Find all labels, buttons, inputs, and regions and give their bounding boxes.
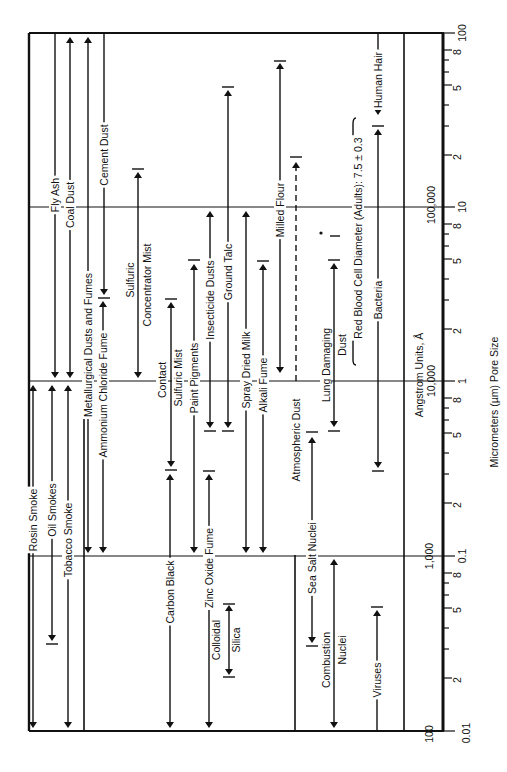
label-nuclei: Nuclei [336, 635, 348, 664]
tick-10: 10 [456, 201, 468, 213]
tick-2: 2 [451, 328, 463, 334]
tick-5: 5 [451, 258, 463, 264]
series-labels: Rosin Smoke Oil Smokes Tobacco Smoke Fly… [27, 49, 384, 699]
label-rosin-smoke: Rosin Smoke [27, 489, 39, 552]
angstrom-100000: 100,000 [425, 186, 437, 224]
tick-0.01: 0.01 [460, 723, 472, 744]
tick-1: 1 [456, 378, 468, 384]
label-coal-dust: Coal Dust [64, 182, 76, 228]
label-sulfuric-2: Concentrator Mist [141, 243, 153, 326]
label-bacteria: Bacteria [372, 281, 384, 320]
angstrom-axis-title: Angstrom Units, Å [413, 333, 425, 418]
label-paint-pigments: Paint Pigments [188, 343, 200, 414]
label-lung-damaging: Lung Damaging [320, 328, 332, 402]
angstrom-labels: 100 1,000 10,000 100,000 Angstrom Units,… [413, 186, 437, 743]
particle-size-chart: 100 8 5 2 10 8 5 2 1 8 5 2 0.1 8 5 2 0.0… [0, 0, 507, 772]
tick-0.5: 5 [451, 432, 463, 438]
label-milled-flour: Milled Flour [274, 182, 286, 237]
label-carbon-black: Carbon Black [164, 560, 176, 624]
micrometer-tick-labels: 100 8 5 2 10 8 5 2 1 8 5 2 0.1 8 5 2 0.0… [451, 24, 472, 743]
label-lung-dust: Dust [336, 334, 348, 356]
label-atmospheric-dust: Atmospheric Dust [290, 398, 302, 481]
label-insecticide-dusts: Insecticide Dusts [204, 260, 216, 339]
label-oil-smokes: Oil Smokes [46, 483, 58, 537]
label-viruses: Viruses [371, 663, 383, 698]
angstrom-100: 100 [423, 725, 435, 743]
label-colloidal: Colloidal [210, 620, 222, 660]
x-axis-title: Micrometers (µm) Pore Size [488, 336, 500, 467]
label-spray-dried-milk: Spray Dried Milk [240, 331, 252, 409]
tick-80: 8 [451, 49, 463, 55]
label-metallurgical: Metallurgical Dusts and Fumes [82, 273, 94, 417]
label-contact-sulfuric-mist: Sulfuric Mist [172, 349, 184, 406]
tick-0.05: 5 [451, 607, 463, 613]
label-sulfuric-1: Sulfuric [124, 262, 136, 297]
label-red-blood-cell: Red Blood Cell Diameter (Adults): 7.5 ± … [352, 137, 364, 338]
tick-8: 8 [451, 223, 463, 229]
tick-100: 100 [456, 24, 468, 42]
tick-0.2: 2 [451, 502, 463, 508]
label-cement-dust: Cement Dust [98, 124, 110, 185]
label-fly-ash: Fly Ash [49, 178, 61, 213]
label-combustion: Combustion [320, 632, 332, 688]
label-ground-talc: Ground Talc [222, 244, 234, 300]
label-contact: Contact [156, 362, 168, 398]
tick-0.08: 8 [451, 572, 463, 578]
tick-0.1: 0.1 [456, 549, 468, 564]
tick-0.02: 2 [451, 677, 463, 683]
angstrom-1000: 1,000 [423, 543, 435, 569]
label-sea-salt-nuclei: Sea Salt Nuclei [306, 522, 318, 594]
tick-0.8: 8 [451, 397, 463, 403]
angstrom-10000: 10,000 [425, 365, 437, 397]
label-tobacco-smoke: Tobacco Smoke [62, 502, 74, 577]
tick-20: 2 [451, 154, 463, 160]
label-alkali-fume: Alkali Fume [257, 357, 269, 412]
micrometer-axis [443, 33, 455, 731]
label-zinc-oxide-fume: Zinc Oxide Fume [203, 528, 215, 608]
label-human-hair: Human Hair [372, 51, 384, 108]
rbc-dot [319, 231, 322, 234]
label-silica: Silica [230, 627, 242, 652]
tick-50: 5 [451, 85, 463, 91]
label-ammonium-chloride: Ammonium Chloride Fume [97, 332, 109, 457]
